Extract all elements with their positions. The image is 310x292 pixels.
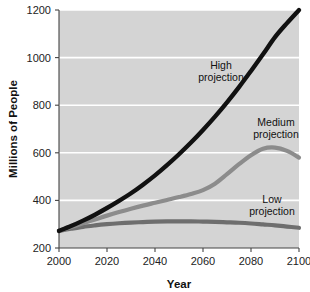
series-annotation-medium-line2: projection — [253, 128, 299, 140]
y-tick-label: 1000 — [27, 52, 51, 64]
series-annotation-low-line2: projection — [249, 205, 295, 217]
y-tick-label: 600 — [33, 147, 51, 159]
chart-canvas: 20040060080010001200 2000202020402060208… — [0, 0, 310, 292]
series-annotation-low-line1: Low — [262, 193, 282, 205]
x-tick-label: 2020 — [95, 255, 119, 267]
population-projection-chart: 20040060080010001200 2000202020402060208… — [0, 0, 310, 292]
y-tick-label: 200 — [33, 242, 51, 254]
x-tick-label: 2060 — [191, 255, 215, 267]
series-annotation-high-line1: High — [210, 59, 232, 71]
x-tick-label: 2040 — [143, 255, 167, 267]
y-tick-label: 400 — [33, 194, 51, 206]
x-tick-label: 2000 — [47, 255, 71, 267]
y-axis-title: Millions of People — [7, 80, 19, 178]
y-tick-label: 1200 — [27, 4, 51, 16]
x-tick-label: 2100 — [287, 255, 310, 267]
series-annotation-medium-line1: Medium — [257, 116, 295, 128]
x-tick-label: 2080 — [239, 255, 263, 267]
x-axis-title: Year — [167, 278, 192, 290]
y-tick-label: 800 — [33, 99, 51, 111]
series-annotation-high-line2: projection — [198, 71, 244, 83]
